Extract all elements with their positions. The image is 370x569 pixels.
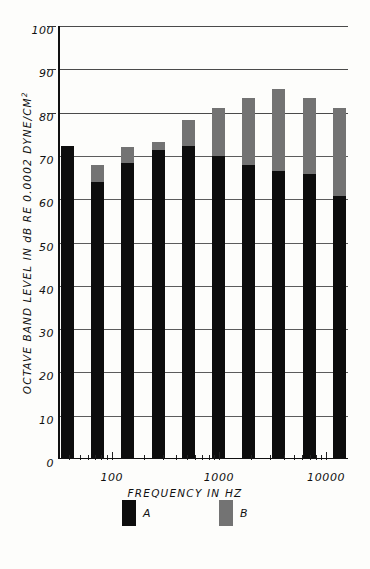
x-tick-label-100: 100 [100,471,123,484]
bar-segment-a [333,196,346,459]
bar-segment-a [121,163,134,459]
y-tick-text: 0 [47,457,55,470]
bar-63hz [91,165,104,459]
bar-segment-a [182,146,195,459]
bar-segment-b [91,165,104,182]
legend-label-a: A [143,507,151,520]
y-axis-title-superscript: 2 [19,91,28,97]
bar-segment-a [303,174,316,459]
y-axis-line [58,26,60,459]
chart-figure: 0102030405060708090100 100100010000 FREQ… [0,0,370,569]
y-tick-text: 20 [39,370,54,383]
legend-label-b: B [240,507,248,520]
y-tick-label-0: 0 [0,452,54,471]
bar-segment-b [333,108,346,196]
gridline-100 [58,26,348,27]
bar-segment-a [212,156,225,459]
bar-16000hz [333,108,346,459]
bar-4000hz [272,89,285,459]
y-tick-text: 10 [39,414,54,427]
bar-8000hz [303,97,316,459]
bar-segment-b [212,108,225,156]
y-tick-label-10: 10 [0,409,54,428]
bar-segment-b [303,98,316,175]
y-tick-text: 70 [39,154,54,167]
y-tick-dash-100 [47,26,56,27]
bar-segment-a [152,150,165,459]
y-tick-label-100: 100 [0,19,54,38]
legend-swatch-a [122,500,136,526]
bar-segment-a [91,182,104,459]
bar-segment-b [242,98,255,165]
y-tick-text: 50 [39,241,54,254]
y-tick-text: 40 [39,284,54,297]
plot-area [58,26,348,459]
bar-segment-a [272,171,285,459]
bar-segment-a [61,146,74,459]
bar-segment-b [272,89,285,171]
x-tick-label-1000: 1000 [204,471,234,484]
bar-31.5hz [61,146,74,459]
x-axis-title: FREQUENCY IN HZ [0,487,370,499]
bar-500hz [182,120,195,459]
bar-segment-b [121,147,134,163]
y-tick-text: 30 [39,327,54,340]
y-axis-title: OCTAVE BAND LEVEL IN dB RE 0.0002 DYNE/C… [19,91,33,394]
y-axis-title-text: OCTAVE BAND LEVEL IN dB RE 0.0002 DYNE/C… [21,97,33,394]
y-tick-label-90: 90 [0,62,54,81]
x-axis-line [58,458,348,460]
legend-item-a: A [122,500,151,526]
bar-1000hz [212,108,225,459]
y-tick-dash-90 [47,69,56,70]
bar-segment-a [242,165,255,459]
legend: AB [0,500,370,526]
bar-segment-b [152,142,165,151]
legend-swatch-b [219,500,233,526]
bar-segment-b [182,120,195,146]
bar-2000hz [242,98,255,459]
bar-250hz [152,142,165,459]
bar-125hz [121,147,134,459]
y-tick-text: 60 [39,197,54,210]
gridline-90 [58,69,348,70]
x-tick-label-10000: 10000 [307,471,345,484]
legend-item-b: B [219,500,248,526]
y-tick-dash-80 [47,113,56,114]
